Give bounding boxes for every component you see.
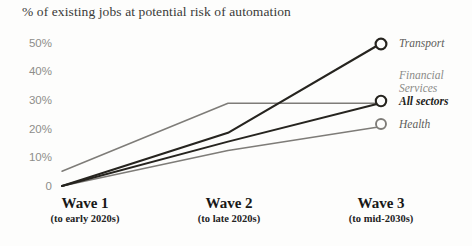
marker-all-sectors-wave3 [376,96,386,106]
marker-health-wave3 [376,119,386,129]
x-axis-label-wave-3: Wave 3 (to mid-2030s) [306,196,456,225]
series-all-sectors [62,96,386,186]
legend-label-all-sectors: All sectors [399,95,449,109]
line-financial-services [62,103,380,171]
x-axis-label-wave-1: Wave 1 (to early 2020s) [10,196,160,225]
x-axis-label-wave-2-main: Wave 2 [154,196,304,212]
series-financial-services [62,103,380,171]
x-axis-label-wave-2: Wave 2 (to late 2020s) [154,196,304,225]
x-axis-label-wave-1-sub: (to early 2020s) [10,213,160,226]
x-axis-label-wave-2-sub: (to late 2020s) [154,213,304,226]
legend-label-transport: Transport [399,37,444,51]
x-axis-label-wave-1-main: Wave 1 [10,196,160,212]
legend-label-financial-services-line1: Financial [399,69,444,83]
series-health [62,119,386,186]
legend-label-financial-services-line2: Services [399,82,437,96]
automation-risk-line-chart: % of existing jobs at potential risk of … [0,0,472,246]
marker-transport-wave3 [376,39,387,50]
x-axis-label-wave-3-main: Wave 3 [306,196,456,212]
legend-label-health: Health [399,118,430,132]
series-transport [62,39,386,186]
x-axis-label-wave-3-sub: (to mid-2030s) [306,213,456,226]
line-all-sectors [62,103,380,186]
